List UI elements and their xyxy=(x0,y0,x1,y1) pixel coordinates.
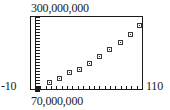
x-axis-tick xyxy=(46,86,47,89)
x-axis-tick xyxy=(99,86,100,89)
x-axis-tick xyxy=(51,86,52,89)
data-point xyxy=(137,23,142,28)
y-axis-max-label: 300,000,000 xyxy=(31,2,89,14)
data-point xyxy=(97,54,102,59)
x-axis-tick xyxy=(142,86,143,89)
y-axis-tick-strip xyxy=(36,17,40,89)
x-axis-max-label: 110 xyxy=(146,80,163,92)
data-point xyxy=(87,61,92,66)
data-point xyxy=(118,40,123,45)
data-point xyxy=(35,87,40,92)
x-axis-tick xyxy=(110,86,111,89)
x-axis-tick-strip xyxy=(31,86,142,89)
x-axis-tick xyxy=(137,86,138,89)
y-axis-min-label: 70,000,000 xyxy=(31,95,83,107)
chart-screenshot: 300,000,000 70,000,000 -10 110 xyxy=(0,0,170,110)
data-point xyxy=(128,32,133,37)
x-axis-tick xyxy=(115,86,116,89)
x-axis-tick xyxy=(105,86,106,89)
x-axis-tick xyxy=(78,86,79,89)
x-axis-tick xyxy=(83,86,84,89)
x-axis-tick xyxy=(121,86,122,89)
y-axis-line xyxy=(35,17,36,89)
x-axis-tick xyxy=(131,86,132,89)
x-axis-tick xyxy=(126,86,127,89)
plot-surface xyxy=(31,17,142,89)
plot-frame xyxy=(30,16,143,90)
x-axis-tick xyxy=(72,86,73,89)
x-axis-tick xyxy=(67,86,68,89)
data-point xyxy=(47,80,52,85)
data-point xyxy=(57,76,62,81)
data-point xyxy=(107,47,112,52)
data-point xyxy=(67,70,72,75)
x-axis-min-label: -10 xyxy=(1,80,16,92)
data-point xyxy=(77,67,82,72)
x-axis-tick xyxy=(56,86,57,89)
x-axis-tick xyxy=(94,86,95,89)
x-axis-tick xyxy=(89,86,90,89)
x-axis-tick xyxy=(40,86,41,89)
x-axis-tick xyxy=(62,86,63,89)
